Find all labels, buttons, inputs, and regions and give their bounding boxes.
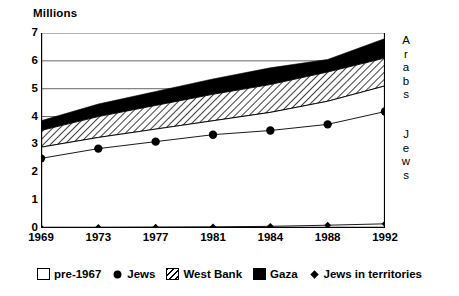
data-point-jews bbox=[209, 130, 217, 138]
plot-area bbox=[41, 33, 385, 228]
y-tick-label: 6 bbox=[24, 55, 38, 67]
data-point-jews bbox=[323, 120, 331, 128]
legend-item-label: Jews in territories bbox=[324, 268, 422, 280]
x-tick-label: 1988 bbox=[315, 232, 341, 244]
data-point-jews bbox=[266, 126, 274, 134]
hatched-square-icon bbox=[166, 268, 179, 280]
plot-svg bbox=[41, 33, 385, 228]
side-label-letter: b bbox=[398, 75, 414, 89]
filled-diamond-icon bbox=[309, 269, 320, 280]
x-tick-label: 1992 bbox=[372, 232, 398, 244]
y-tick-label: 1 bbox=[24, 194, 38, 206]
side-label-letter: J bbox=[398, 128, 414, 142]
side-label-letter: a bbox=[398, 61, 414, 75]
x-tick-label: 1973 bbox=[86, 232, 112, 244]
x-axis-tick-labels: 1969197319771981198419881992 bbox=[0, 232, 459, 248]
side-label-letter: A bbox=[398, 34, 414, 48]
side-label-arabs: Arabs bbox=[398, 34, 414, 102]
side-label-letter: w bbox=[398, 155, 414, 169]
legend-item-label: pre-1967 bbox=[54, 268, 101, 280]
legend-item: West Bank bbox=[166, 268, 242, 280]
white-square-icon bbox=[37, 268, 50, 280]
y-tick-label: 3 bbox=[24, 138, 38, 150]
stacked-area-chart: Millions 01234567 1969197319771981198419… bbox=[0, 0, 459, 296]
y-tick-label: 5 bbox=[24, 83, 38, 95]
side-label-letter: e bbox=[398, 142, 414, 156]
x-tick-label: 1981 bbox=[200, 232, 226, 244]
black-square-icon bbox=[253, 268, 266, 280]
side-label-letter: s bbox=[398, 169, 414, 183]
data-point-jews bbox=[94, 144, 102, 152]
y-axis-tick-labels: 01234567 bbox=[18, 0, 38, 296]
legend-item: pre-1967 bbox=[37, 268, 101, 280]
y-tick-label: 7 bbox=[24, 27, 38, 39]
legend-item: Jews in territories bbox=[309, 268, 422, 280]
legend-item: Jews bbox=[112, 268, 155, 280]
legend-item-label: Gaza bbox=[270, 268, 298, 280]
x-tick-label: 1969 bbox=[28, 232, 54, 244]
x-tick-label: 1984 bbox=[258, 232, 284, 244]
side-label-letter: r bbox=[398, 48, 414, 62]
y-tick-label: 2 bbox=[24, 166, 38, 178]
legend-item-label: West Bank bbox=[183, 268, 242, 280]
y-tick-label: 4 bbox=[24, 111, 38, 123]
side-label-jews: Jews bbox=[398, 128, 414, 182]
legend-item: Gaza bbox=[253, 268, 298, 280]
chart-legend: pre-1967JewsWest BankGazaJews in territo… bbox=[0, 268, 459, 280]
data-point-jews bbox=[151, 137, 159, 145]
filled-circle-icon bbox=[112, 269, 123, 280]
x-tick-label: 1977 bbox=[143, 232, 169, 244]
y-axis-title: Millions bbox=[33, 7, 77, 19]
side-label-letter: s bbox=[398, 88, 414, 102]
legend-item-label: Jews bbox=[127, 268, 155, 280]
